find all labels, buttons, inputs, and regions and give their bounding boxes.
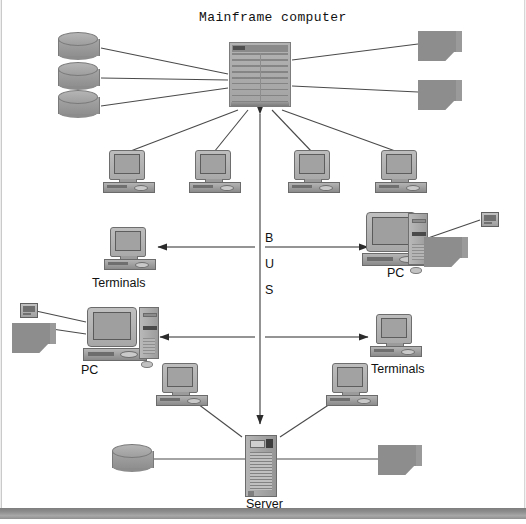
disk-top <box>58 62 98 76</box>
printer-edge <box>416 445 422 466</box>
desktop-terminal-icon <box>103 150 155 194</box>
tower-vent <box>143 338 155 354</box>
terminal-base-unit <box>103 182 155 193</box>
terminal-screen <box>299 154 325 174</box>
printer-icon <box>418 80 462 110</box>
page-title: Mainframe computer <box>199 10 347 25</box>
terminal-drive-slot <box>292 185 312 188</box>
tower-drive-bay <box>412 219 426 223</box>
terminal-dial <box>401 349 415 355</box>
printer-tray <box>378 464 416 475</box>
terminal-screen <box>115 231 141 251</box>
terminal-monitor <box>195 150 231 180</box>
small-device-screen <box>23 306 35 312</box>
printer-icon <box>424 237 468 267</box>
terminal-dial <box>357 398 371 404</box>
bus-letter-u: U <box>265 257 274 271</box>
tower-drive-bay <box>143 313 157 317</box>
disk-top <box>58 90 98 104</box>
pc-dial <box>120 351 138 358</box>
mouse-icon <box>410 267 422 274</box>
printer-tray <box>424 256 462 267</box>
mouse-icon <box>141 361 153 368</box>
label-terminals-left: Terminals <box>92 276 146 290</box>
computer-tower-icon <box>139 307 159 359</box>
tower-panel <box>412 232 426 236</box>
pc-screen <box>93 312 131 340</box>
disk-top <box>58 32 98 46</box>
small-device-screen <box>484 215 496 221</box>
terminal-dial <box>135 262 149 268</box>
mainframe-top-panel <box>232 45 288 52</box>
terminal-base-unit <box>370 346 422 357</box>
terminal-base-unit <box>104 259 156 270</box>
mainframe-door-split <box>260 53 261 102</box>
terminal-monitor <box>294 150 330 180</box>
terminal-monitor <box>332 363 368 393</box>
terminal-drive-slot <box>379 185 399 188</box>
printer-tray <box>418 50 456 61</box>
terminal-monitor <box>376 314 412 344</box>
pc-base-unit <box>83 348 147 361</box>
frame-border-left <box>0 0 2 508</box>
label-pc-right: PC <box>387 266 404 280</box>
terminal-screen <box>200 154 226 174</box>
terminal-monitor <box>109 150 145 180</box>
desktop-terminal-icon <box>326 363 378 407</box>
bottom-gray-bar <box>0 508 526 519</box>
small-device-slot <box>23 313 31 315</box>
desktop-terminal-icon <box>288 150 340 194</box>
server-power-button <box>266 439 273 448</box>
terminal-base-unit <box>326 395 378 406</box>
printer-icon <box>12 323 56 353</box>
terminal-dial <box>187 398 201 404</box>
small-device-slot <box>484 222 492 224</box>
terminal-drive-slot <box>193 185 213 188</box>
printer-icon <box>418 31 462 61</box>
desktop-terminal-icon <box>189 150 241 194</box>
disk-top <box>112 444 152 458</box>
terminal-drive-slot <box>107 185 127 188</box>
small-device-icon <box>20 303 38 318</box>
server-vent-grill <box>250 452 272 490</box>
pc-monitor <box>87 307 137 347</box>
terminal-screen <box>114 154 140 174</box>
desktop-terminal-icon <box>370 314 422 358</box>
terminal-screen <box>337 367 363 387</box>
printer-icon <box>378 445 422 475</box>
label-terminals-right: Terminals <box>371 362 425 376</box>
terminal-drive-slot <box>108 262 128 265</box>
desktop-terminal-icon <box>156 363 208 407</box>
disk-storage-icon <box>58 62 98 90</box>
diagram-canvas: Mainframe computer <box>0 0 526 524</box>
terminal-base-unit <box>189 182 241 193</box>
disk-storage-icon <box>58 90 98 118</box>
printer-tray <box>418 99 456 110</box>
printer-edge <box>456 80 462 101</box>
terminal-dial <box>220 185 234 191</box>
server-display-panel <box>250 440 265 448</box>
terminal-dial <box>319 185 333 191</box>
desktop-terminal-icon <box>375 150 427 194</box>
mainframe-computer-icon <box>229 42 291 107</box>
pc-screen <box>372 217 410 245</box>
terminal-base-unit <box>288 182 340 193</box>
tower-panel <box>143 326 157 330</box>
terminal-monitor <box>381 150 417 180</box>
server-tower-icon <box>245 435 277 497</box>
printer-tray <box>12 342 50 353</box>
pc-drive-slot <box>367 257 393 261</box>
tower-vent <box>412 244 424 260</box>
terminal-drive-slot <box>330 398 350 401</box>
bus-letter-s: S <box>265 283 273 297</box>
personal-computer-icon <box>83 307 147 363</box>
printer-edge <box>462 237 468 258</box>
terminal-monitor <box>162 363 198 393</box>
small-device-icon <box>481 212 499 227</box>
pc-drive-slot <box>88 352 114 356</box>
terminal-screen <box>386 154 412 174</box>
terminal-dial <box>134 185 148 191</box>
terminal-screen <box>167 367 193 387</box>
disk-storage-icon <box>58 32 98 60</box>
disk-storage-icon <box>112 444 152 472</box>
